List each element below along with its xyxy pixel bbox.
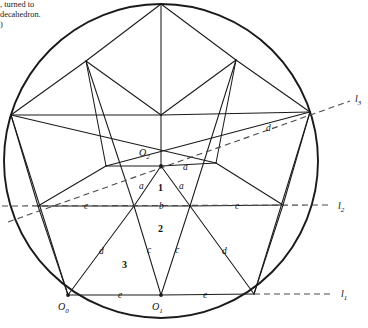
edge-label-a-right: a bbox=[179, 181, 184, 191]
point-O0-dot bbox=[66, 293, 70, 297]
construction-line bbox=[216, 163, 283, 205]
construction-line bbox=[254, 112, 310, 294]
point-O1-dot bbox=[159, 293, 163, 297]
point-label-O2: O2 bbox=[139, 147, 150, 161]
edge-label-d-lower-right: d bbox=[222, 246, 227, 256]
axis-label-l2: l2 bbox=[338, 200, 345, 214]
construction-line bbox=[86, 61, 134, 206]
construction-line bbox=[11, 115, 68, 295]
construction-line bbox=[161, 112, 310, 115]
construction-line bbox=[161, 294, 254, 295]
edge-label-c-lower-right: c bbox=[175, 245, 180, 255]
edge-label-c-lower-left: c bbox=[147, 245, 152, 255]
construction-line bbox=[38, 166, 106, 206]
axis-label-l3: l3 bbox=[355, 93, 362, 107]
axis-label-l1: l1 bbox=[341, 288, 347, 302]
edge-label-e-right: e bbox=[203, 290, 207, 300]
edge-label-e-left: e bbox=[118, 290, 122, 300]
point-O2-dot bbox=[159, 164, 163, 168]
construction-line bbox=[106, 112, 310, 166]
region-label-2: 2 bbox=[158, 223, 163, 234]
edge-label-a-left: a bbox=[139, 181, 144, 191]
construction-line bbox=[161, 60, 236, 115]
construction-line bbox=[86, 4, 161, 61]
construction-line bbox=[161, 166, 190, 206]
point-label-O1: O1 bbox=[152, 301, 163, 315]
geometric-construction-figure: aaabccccdddee123O2O0O1l1l2l3 bbox=[0, 0, 368, 328]
region-label-3: 3 bbox=[122, 259, 127, 270]
edge-label-c-right: c bbox=[235, 201, 240, 211]
axis-lines-group bbox=[2, 101, 350, 294]
edge-label-b: b bbox=[159, 201, 164, 211]
point-label-O0: O0 bbox=[58, 301, 69, 315]
edge-label-a-top: a bbox=[183, 162, 188, 172]
construction-line bbox=[161, 4, 236, 60]
region-label-1: 1 bbox=[158, 182, 163, 193]
construction-lines-group bbox=[11, 4, 310, 295]
construction-line bbox=[86, 61, 161, 115]
labels-group: aaabccccdddee123O2O0O1l1l2l3 bbox=[58, 93, 362, 315]
edge-label-d-upper: d bbox=[266, 123, 271, 133]
edge-label-d-lower-left: d bbox=[99, 246, 104, 256]
axis-line-l3 bbox=[8, 101, 350, 222]
figure-page: , turned to decahedron. ) aaabccccdddee1… bbox=[0, 0, 368, 328]
construction-line bbox=[11, 115, 216, 163]
